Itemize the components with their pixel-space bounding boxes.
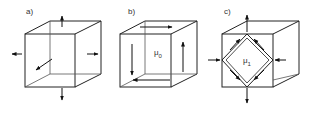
mu-zero-label: μ0 (154, 48, 162, 59)
mu-subscript: 0 (159, 53, 162, 59)
cube-c (222, 21, 299, 87)
mu-one-label: μ1 (243, 56, 251, 67)
panel-label-b: b) (128, 7, 135, 16)
panel-label-c: c) (224, 7, 231, 16)
panel-label-a: a) (26, 7, 33, 16)
mu-subscript: 1 (248, 61, 251, 67)
